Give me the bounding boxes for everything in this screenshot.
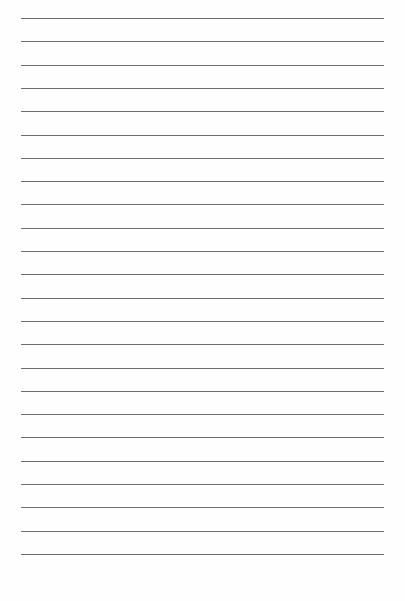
ruled-line (21, 414, 384, 415)
ruled-line (21, 298, 384, 299)
ruled-line (21, 181, 384, 182)
ruled-line (21, 437, 384, 438)
ruled-line (21, 204, 384, 205)
ruled-line (21, 18, 384, 19)
ruled-line (21, 344, 384, 345)
ruled-line (21, 111, 384, 112)
ruled-line (21, 484, 384, 485)
ruled-line (21, 251, 384, 252)
ruled-line (21, 531, 384, 532)
ruled-line (21, 274, 384, 275)
ruled-line (21, 554, 384, 555)
ruled-line (21, 88, 384, 89)
ruled-line (21, 391, 384, 392)
ruled-line (21, 368, 384, 369)
ruled-line (21, 461, 384, 462)
ruled-line (21, 135, 384, 136)
ruled-line (21, 41, 384, 42)
ruled-line (21, 507, 384, 508)
ruled-line (21, 228, 384, 229)
ruled-line (21, 321, 384, 322)
ruled-line (21, 65, 384, 66)
ruled-line (21, 158, 384, 159)
lined-paper-page (0, 0, 405, 601)
